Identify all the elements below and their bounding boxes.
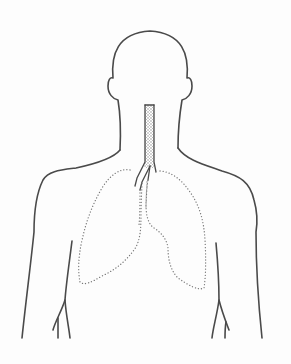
trachea-left-wall [135,105,145,186]
right-shoulder-outline [178,148,262,338]
respiratory-diagram: Human upper body with respiratory system [0,0,291,364]
trachea [135,105,156,190]
right-inner-arm [216,243,229,330]
right-lung [146,171,206,289]
left-inner-arm [53,241,72,330]
left-bronchus-track [139,190,140,225]
right-bronchus-track [146,182,147,208]
left-hand-line-1 [65,300,70,338]
left-lung [79,170,142,284]
trachea-fill [145,105,154,163]
right-hand-line-1 [212,300,219,338]
trachea-right-wall [154,105,156,172]
right-hand-line-2 [225,322,226,338]
